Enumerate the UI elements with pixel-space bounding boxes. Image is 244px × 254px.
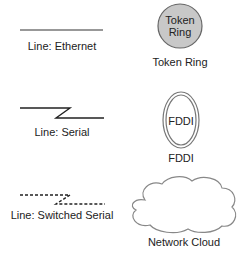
fddi-inner-text: FDDI <box>168 115 194 127</box>
ethernet-label: Line: Ethernet <box>28 40 97 52</box>
token-ring-inner-line1: Token <box>165 14 194 26</box>
switched-serial-label: Line: Switched Serial <box>11 209 114 221</box>
fddi-label: FDDI <box>168 152 194 164</box>
serial-line-icon <box>20 108 104 118</box>
network-cloud-icon <box>132 177 235 233</box>
serial-label: Line: Serial <box>34 126 89 138</box>
token-ring-inner-line2: Ring <box>165 26 194 38</box>
switched-serial-line-icon <box>20 195 105 204</box>
network-cloud-label: Network Cloud <box>148 236 220 248</box>
token-ring-label: Token Ring <box>152 56 207 68</box>
token-ring-inner-text: Token Ring <box>165 14 194 38</box>
